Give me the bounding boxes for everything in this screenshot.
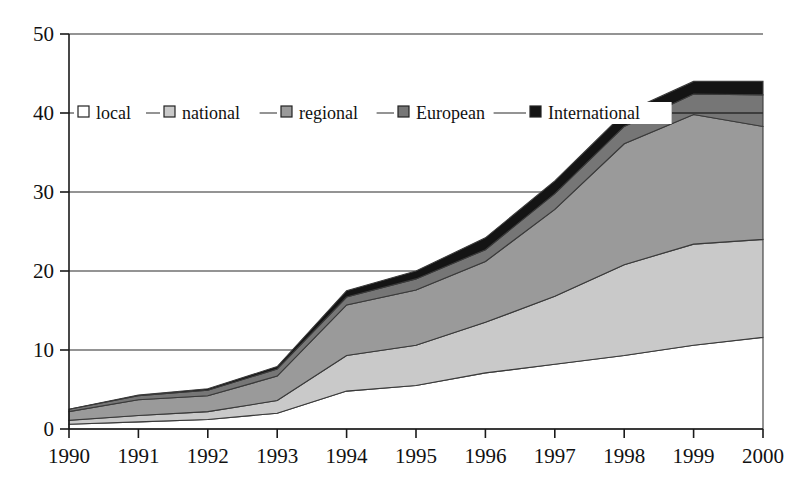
y-tick-label-group: 01020304050 (33, 22, 54, 441)
x-tick-label-1990: 1990 (48, 444, 90, 468)
chart-canvas: 01020304050 1990199119921993199419951996… (0, 0, 794, 492)
x-tick-label-1997: 1997 (534, 444, 576, 468)
legend-swatch-international-icon (530, 106, 541, 117)
x-tick-label-1998: 1998 (603, 444, 645, 468)
x-tick-label-1991: 1991 (117, 444, 159, 468)
y-tick-label-20: 20 (33, 259, 54, 283)
x-tick-label-1999: 1999 (673, 444, 715, 468)
legend-swatch-local-icon (78, 106, 89, 117)
legend-item-local[interactable]: local (74, 102, 146, 124)
y-tick-label-10: 10 (33, 338, 54, 362)
legend-label-regional: regional (299, 103, 358, 123)
x-tick-label-1992: 1992 (187, 444, 229, 468)
legend-label-international: International (548, 103, 640, 123)
legend-item-international[interactable]: International (526, 102, 672, 124)
x-tick-label-2000: 2000 (742, 444, 784, 468)
legend-swatch-european-icon (398, 106, 409, 117)
y-tick-label-40: 40 (33, 101, 54, 125)
stacked-area-chart: 01020304050 1990199119921993199419951996… (0, 0, 794, 492)
y-tick-label-0: 0 (44, 417, 55, 441)
x-tick-group (69, 429, 763, 438)
legend-item-regional[interactable]: regional (277, 102, 377, 124)
y-tick-label-50: 50 (33, 22, 54, 46)
legend-item-european[interactable]: European (394, 102, 494, 124)
chart-legend: localnationalregionalEuropeanInternation… (69, 102, 763, 124)
y-tick-group (60, 34, 69, 429)
y-tick-label-30: 30 (33, 180, 54, 204)
legend-swatch-regional-icon (281, 106, 292, 117)
legend-item-national[interactable]: national (160, 102, 260, 124)
x-tick-label-group: 1990199119921993199419951996199719981999… (48, 444, 784, 468)
x-tick-label-1995: 1995 (395, 444, 437, 468)
area-series-group (69, 81, 763, 429)
legend-label-local: local (96, 103, 131, 123)
x-tick-label-1994: 1994 (326, 444, 369, 468)
x-tick-label-1993: 1993 (256, 444, 298, 468)
legend-label-national: national (182, 103, 240, 123)
legend-swatch-national-icon (164, 106, 175, 117)
x-tick-label-1996: 1996 (464, 444, 506, 468)
legend-label-european: European (416, 103, 485, 123)
